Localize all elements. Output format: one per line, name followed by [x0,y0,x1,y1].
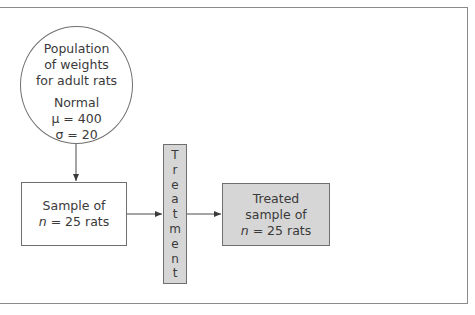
treatment-letter: t [173,207,178,222]
sample-box: Sample of n = 25 rats [21,182,127,246]
mean-label: μ = 400 [21,111,132,127]
population-title: Population of weights for adult rats [21,41,132,89]
treatment-letter: r [173,163,178,178]
treated-sample-box: Treated sample of n = 25 rats [222,183,330,246]
treated-label: Treated [253,191,300,207]
treatment-letter: n [171,252,179,267]
population-parameters: Normal μ = 400 σ = 20 [21,95,132,143]
frame-right-border [467,7,468,304]
treatment-letter: e [171,237,178,252]
distribution-label: Normal [21,95,132,111]
sample-size-label: n = 25 rats [39,214,109,230]
frame-bottom-border [0,303,468,304]
sample-size-value: = 25 rats [47,214,110,229]
treated-sample-size-value: = 25 rats [249,223,312,238]
sample-label: Sample of [43,198,106,214]
population-title-line: for adult rats [21,73,132,89]
treatment-letter: t [173,266,178,281]
treated-sample-size-label: n = 25 rats [241,223,311,239]
std-dev-label: σ = 20 [21,127,132,143]
treatment-letter: T [171,148,178,163]
treatment-letter: a [171,192,178,207]
treated-sample-label: sample of [245,207,306,223]
population-circle: Population of weights for adult rats Nor… [20,26,133,144]
n-symbol: n [241,223,249,238]
population-title-line: of weights [21,57,132,73]
population-title-line: Population [21,41,132,57]
treatment-bar: T r e a t m e n t [163,144,187,284]
treatment-letter: e [171,178,178,193]
frame-top-border [0,7,468,8]
n-symbol: n [39,214,47,229]
treatment-letter: m [169,222,181,237]
